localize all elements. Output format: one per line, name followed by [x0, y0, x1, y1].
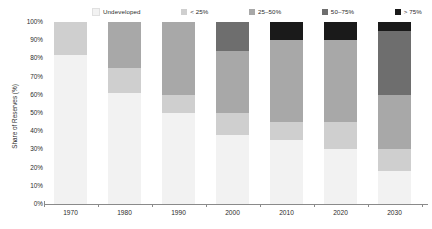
legend-item[interactable]: Undeveloped	[92, 8, 141, 16]
x-axis-tick-label: 1990	[159, 209, 199, 216]
x-axis-tick-label: 2020	[321, 209, 361, 216]
bar-segment[interactable]	[54, 55, 87, 204]
x-axis-line	[44, 204, 428, 205]
x-axis-tick-label: 1970	[51, 209, 91, 216]
bar-segment[interactable]	[216, 113, 249, 135]
bar-2020[interactable]	[324, 22, 357, 204]
x-axis-tick-mark	[152, 204, 153, 207]
legend-label: < 25%	[190, 9, 208, 15]
bar-1990[interactable]	[162, 22, 195, 204]
y-axis-tick-label: 70%	[30, 73, 43, 79]
bar-segment[interactable]	[216, 51, 249, 113]
legend-item[interactable]: < 25%	[181, 9, 208, 15]
legend-swatch-icon	[249, 9, 255, 15]
bar-segment[interactable]	[270, 140, 303, 204]
plot-area	[47, 22, 427, 204]
bar-segment[interactable]	[54, 22, 87, 55]
x-axis-tick-mark	[44, 204, 45, 207]
bar-segment[interactable]	[162, 95, 195, 113]
legend-item[interactable]: 50–75%	[322, 9, 354, 15]
y-axis-tick-label: 100%	[27, 19, 43, 25]
y-axis: Share of Reserves (%) 0%10%20%30%40%50%6…	[0, 0, 47, 229]
bar-2010[interactable]	[270, 22, 303, 204]
y-axis-tick-label: 80%	[30, 55, 43, 61]
bar-segment[interactable]	[216, 135, 249, 204]
chart-legend: Undeveloped< 25%25–50%50–75%> 75%	[92, 6, 422, 18]
legend-label: 50–75%	[331, 9, 354, 15]
y-axis-tick-label: 60%	[30, 92, 43, 98]
bar-segment[interactable]	[270, 122, 303, 140]
bar-segment[interactable]	[378, 31, 411, 95]
stacked-bar-chart: Undeveloped< 25%25–50%50–75%> 75% Share …	[0, 0, 432, 229]
legend-item[interactable]: 25–50%	[249, 9, 281, 15]
x-axis-tick-mark	[206, 204, 207, 207]
bar-segment[interactable]	[270, 22, 303, 40]
x-axis-tick-mark	[368, 204, 369, 207]
legend-item[interactable]: > 75%	[395, 9, 422, 15]
y-axis-tick-label: 40%	[30, 128, 43, 134]
legend-swatch-icon	[181, 9, 187, 15]
legend-label: > 75%	[404, 9, 422, 15]
legend-swatch-icon	[322, 9, 328, 15]
legend-swatch-icon	[92, 8, 100, 16]
y-axis-tick-label: 50%	[30, 110, 43, 116]
bar-segment[interactable]	[378, 22, 411, 31]
y-axis-tick-label: 10%	[30, 183, 43, 189]
bar-segment[interactable]	[108, 93, 141, 204]
bar-segment[interactable]	[378, 149, 411, 171]
bar-segment[interactable]	[324, 122, 357, 149]
bar-segment[interactable]	[324, 40, 357, 122]
x-axis-tick-label: 2010	[267, 209, 307, 216]
legend-swatch-icon	[395, 9, 401, 15]
y-axis-tick-label: 90%	[30, 37, 43, 43]
x-axis-tick-label: 1980	[105, 209, 145, 216]
x-axis-tick-label: 2030	[375, 209, 415, 216]
x-axis-tick-label: 2000	[213, 209, 253, 216]
bar-1970[interactable]	[54, 22, 87, 204]
legend-label: 25–50%	[258, 9, 281, 15]
bar-2030[interactable]	[378, 22, 411, 204]
bar-segment[interactable]	[162, 22, 195, 95]
bar-segment[interactable]	[324, 22, 357, 40]
y-axis-tick-label: 0%	[34, 201, 43, 207]
x-axis-tick-mark	[98, 204, 99, 207]
bar-segment[interactable]	[162, 113, 195, 204]
bar-segment[interactable]	[108, 22, 141, 68]
y-axis-tick-label: 30%	[30, 146, 43, 152]
bar-segment[interactable]	[216, 22, 249, 51]
y-axis-title: Share of Reserves (%)	[11, 67, 18, 167]
x-axis-tick-mark	[314, 204, 315, 207]
bar-segment[interactable]	[378, 171, 411, 204]
bar-segment[interactable]	[108, 68, 141, 93]
x-axis-tick-mark	[422, 204, 423, 207]
bar-1980[interactable]	[108, 22, 141, 204]
bar-segment[interactable]	[270, 40, 303, 122]
bar-segment[interactable]	[324, 149, 357, 204]
legend-label: Undeveloped	[103, 9, 141, 15]
y-axis-tick-label: 20%	[30, 164, 43, 170]
bar-segment[interactable]	[378, 95, 411, 150]
bar-2000[interactable]	[216, 22, 249, 204]
x-axis-tick-mark	[260, 204, 261, 207]
